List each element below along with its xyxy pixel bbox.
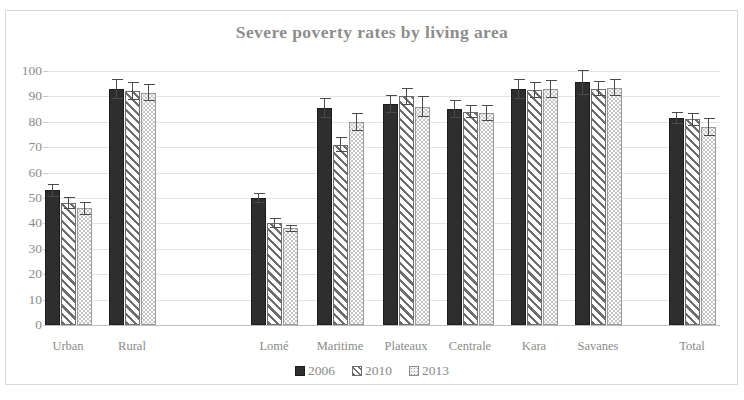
bar-urban-2013[interactable]	[77, 208, 92, 325]
legend-item-2006[interactable]: 2006	[295, 363, 335, 379]
error-bar-cap	[402, 88, 413, 89]
bar-centrale-2010[interactable]	[463, 112, 478, 325]
error-bar	[582, 70, 583, 95]
legend-label: 2010	[365, 363, 392, 379]
error-bar-cap	[112, 98, 123, 99]
error-bar-cap	[286, 231, 297, 232]
error-bar	[290, 225, 291, 233]
bar-centrale-2006[interactable]	[447, 109, 462, 325]
bar-rural-2010[interactable]	[125, 91, 140, 325]
error-bar-cap	[418, 96, 429, 97]
error-bar-cap	[546, 97, 557, 98]
bar-savanes-2010[interactable]	[591, 89, 606, 325]
error-bar-cap	[336, 151, 347, 152]
bar-rural-2006[interactable]	[109, 89, 124, 325]
error-bar-cap	[514, 98, 525, 99]
bar-plateaux-2010[interactable]	[399, 96, 414, 325]
error-bar-cap	[514, 79, 525, 80]
bar-group	[109, 71, 156, 325]
error-bar	[692, 113, 693, 126]
bar-plateaux-2006[interactable]	[383, 104, 398, 325]
legend-item-2013[interactable]: 2013	[409, 363, 449, 379]
error-bar-cap	[688, 125, 699, 126]
bar-savanes-2006[interactable]	[575, 82, 590, 325]
bar-group	[447, 71, 494, 325]
bar-maritime-2010[interactable]	[333, 145, 348, 325]
y-axis-tick-label: 60	[8, 165, 42, 181]
error-bar-cap	[64, 197, 75, 198]
error-bar-cap	[450, 117, 461, 118]
gridline	[48, 325, 720, 326]
y-axis-tick-label: 0	[8, 317, 42, 333]
chart-legend: 200620102013	[0, 363, 744, 379]
error-bar-cap	[144, 100, 155, 101]
error-bar-cap	[352, 130, 363, 131]
error-bar-cap	[286, 225, 297, 226]
error-bar	[324, 98, 325, 118]
error-bar-cap	[48, 196, 59, 197]
bar-maritime-2013[interactable]	[349, 122, 364, 325]
y-axis-tick-label: 20	[8, 266, 42, 282]
error-bar-cap	[672, 123, 683, 124]
bar-savanes-2013[interactable]	[607, 88, 622, 325]
legend-label: 2013	[422, 363, 449, 379]
error-bar-cap	[578, 70, 589, 71]
bar-urban-2006[interactable]	[45, 190, 60, 325]
x-axis-label-kara: Kara	[522, 339, 546, 354]
error-bar-cap	[64, 208, 75, 209]
error-bar-cap	[466, 105, 477, 106]
error-bar	[518, 79, 519, 99]
bar-total-2013[interactable]	[701, 127, 716, 325]
bar-lomé-2010[interactable]	[267, 223, 282, 325]
error-bar-cap	[128, 99, 139, 100]
bar-kara-2013[interactable]	[543, 89, 558, 325]
error-bar-cap	[672, 112, 683, 113]
bar-total-2006[interactable]	[669, 118, 684, 325]
bar-kara-2010[interactable]	[527, 90, 542, 325]
y-axis-tick-label: 10	[8, 292, 42, 308]
bar-rural-2013[interactable]	[141, 93, 156, 325]
legend-item-2010[interactable]: 2010	[352, 363, 392, 379]
x-axis-label-total: Total	[679, 339, 705, 354]
error-bar-cap	[254, 202, 265, 203]
error-bar	[148, 84, 149, 102]
error-bar	[390, 95, 391, 113]
bar-group	[511, 71, 558, 325]
bar-lomé-2013[interactable]	[283, 228, 298, 325]
bar-urban-2010[interactable]	[61, 203, 76, 325]
error-bar-cap	[418, 116, 429, 117]
error-bar-cap	[546, 80, 557, 81]
error-bar-cap	[704, 118, 715, 119]
error-bar	[356, 113, 357, 131]
bar-group	[317, 71, 364, 325]
x-axis-label-savanes: Savanes	[578, 339, 619, 354]
bar-group	[383, 71, 430, 325]
bar-maritime-2006[interactable]	[317, 108, 332, 325]
error-bar	[470, 105, 471, 118]
error-bar-cap	[270, 218, 281, 219]
y-axis-tick-label: 30	[8, 241, 42, 257]
error-bar	[708, 118, 709, 136]
error-bar-cap	[254, 193, 265, 194]
bar-plateaux-2013[interactable]	[415, 107, 430, 325]
error-bar	[598, 81, 599, 96]
bar-total-2010[interactable]	[685, 119, 700, 325]
error-bar-cap	[482, 120, 493, 121]
chart-page: Severe poverty rates by living area 0102…	[0, 0, 744, 400]
error-bar	[68, 197, 69, 210]
error-bar	[676, 112, 677, 125]
error-bar-cap	[704, 135, 715, 136]
error-bar	[422, 96, 423, 116]
plot-area	[48, 71, 720, 325]
legend-swatch-icon	[409, 366, 419, 376]
bar-kara-2006[interactable]	[511, 89, 526, 325]
error-bar-cap	[466, 117, 477, 118]
error-bar	[614, 79, 615, 97]
error-bar-cap	[112, 79, 123, 80]
x-axis-label-centrale: Centrale	[449, 339, 491, 354]
error-bar-cap	[320, 98, 331, 99]
bar-centrale-2013[interactable]	[479, 113, 494, 325]
error-bar	[116, 79, 117, 99]
bar-lomé-2006[interactable]	[251, 198, 266, 325]
y-axis-tick-label: 50	[8, 190, 42, 206]
